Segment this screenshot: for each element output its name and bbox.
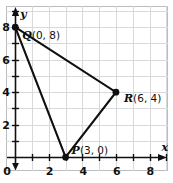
y-tick-label-4: 4 bbox=[2, 87, 10, 98]
x-tick-label-6: 6 bbox=[113, 166, 121, 177]
point-coords-r: (6, 4) bbox=[133, 92, 161, 104]
y-axis-label: y bbox=[20, 9, 26, 20]
point-name-r: R bbox=[124, 92, 133, 105]
x-tick-label-8: 8 bbox=[147, 166, 155, 177]
point-label-r: R(6, 4) bbox=[124, 93, 161, 104]
point-name-p: P bbox=[72, 144, 80, 157]
point-coords-p: (3, 0) bbox=[80, 144, 108, 156]
coordinate-plane-figure: x y 0 2 4 6 8 2 4 6 8 Q(0, 8) R(6, 4) P(… bbox=[0, 0, 173, 183]
x-tick-label-2: 2 bbox=[46, 166, 54, 177]
x-tick-label-4: 4 bbox=[79, 166, 87, 177]
x-axis-label: x bbox=[162, 142, 169, 153]
point-label-q: Q(0, 8) bbox=[22, 30, 60, 41]
y-tick-label-2: 2 bbox=[2, 120, 10, 131]
point-label-p: P(3, 0) bbox=[72, 145, 109, 156]
x-tick-label-0: 0 bbox=[3, 166, 11, 177]
point-name-q: Q bbox=[22, 29, 32, 42]
point-coords-q: (0, 8) bbox=[32, 29, 60, 41]
y-tick-label-6: 6 bbox=[2, 55, 10, 66]
y-tick-label-8: 8 bbox=[2, 22, 10, 33]
